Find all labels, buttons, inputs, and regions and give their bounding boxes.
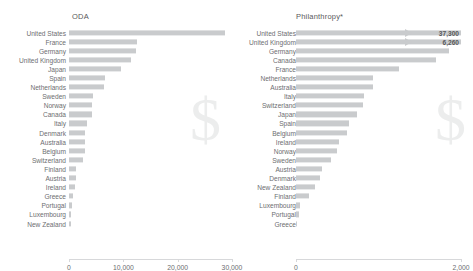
bar-track [296, 139, 461, 144]
bar-track [296, 30, 461, 35]
category-label: United Kingdom [2, 56, 66, 63]
category-label: Finland [230, 193, 296, 200]
category-label: Ireland [2, 184, 66, 191]
overflow-arrow-icon [405, 29, 412, 37]
category-label: Netherlands [230, 75, 296, 82]
plot-area-philanthropy: United States37,300United Kingdom6,260Ge… [240, 28, 473, 228]
category-label: New Zealand [2, 220, 66, 227]
bar-row: France [240, 64, 473, 73]
bar-track [69, 48, 232, 53]
bar [296, 112, 357, 117]
bar-track [69, 94, 232, 99]
bar [69, 94, 93, 99]
category-label: Germany [2, 47, 66, 54]
bar [296, 94, 364, 99]
bar-track [296, 66, 461, 71]
bar-track [69, 121, 232, 126]
bar-track [296, 75, 461, 80]
plot-area-oda: United StatesFranceGermanyUnited Kingdom… [0, 28, 240, 228]
bar [69, 112, 92, 117]
category-label: Austria [2, 175, 66, 182]
bar-row: Luxembourg [240, 201, 473, 210]
bar-track [296, 221, 461, 226]
category-label: Spain [2, 75, 66, 82]
bar-row: United States37,300 [240, 28, 473, 37]
bar [69, 194, 73, 199]
category-label: United Kingdom [230, 38, 296, 45]
category-label: New Zealand [230, 184, 296, 191]
axis-tick [69, 259, 70, 262]
bar-row: Ireland [0, 183, 240, 192]
bar-track [296, 175, 461, 180]
category-label: Canada [2, 111, 66, 118]
bar-track [69, 148, 232, 153]
category-label: Luxembourg [230, 202, 296, 209]
bar-track [296, 121, 461, 126]
bar [69, 75, 105, 80]
bar-track [296, 112, 461, 117]
bar-row: Canada [0, 110, 240, 119]
x-axis-philanthropy: 02,000 [296, 259, 461, 260]
bar-track [69, 85, 232, 90]
bar [296, 148, 337, 153]
axis-tick-label: 0 [67, 264, 71, 271]
bar [296, 30, 461, 35]
bar [296, 221, 297, 226]
category-label: Japan [230, 111, 296, 118]
bar-row: Italy [0, 119, 240, 128]
category-label: Norway [2, 102, 66, 109]
bar-row: France [0, 37, 240, 46]
bar [69, 148, 85, 153]
bar [296, 175, 320, 180]
bar-track [296, 39, 461, 44]
bar-row: Japan [240, 110, 473, 119]
bar-row: Sweden [240, 155, 473, 164]
bar-row: Greece [240, 219, 473, 228]
panel-title-oda: ODA [72, 12, 89, 21]
bar-track [296, 85, 461, 90]
bar [69, 175, 76, 180]
bar-track [69, 212, 232, 217]
bar-row: Norway [240, 146, 473, 155]
bar-row: Austria [240, 164, 473, 173]
bar-row: Finland [0, 164, 240, 173]
bar-row: Spain [240, 119, 473, 128]
axis-tick-label: 0 [294, 264, 298, 271]
bar-track [296, 103, 461, 108]
category-label: Luxembourg [2, 211, 66, 218]
bar-row: Netherlands [0, 83, 240, 92]
bar-row: Finland [240, 192, 473, 201]
bar-row: Portugal [0, 201, 240, 210]
category-label: Portugal [230, 211, 296, 218]
bar-track [69, 39, 232, 44]
axis-tick [461, 259, 462, 262]
category-label: Italy [2, 120, 66, 127]
bar [296, 85, 373, 90]
bar [69, 30, 225, 35]
bar-value-label: 37,300 [439, 29, 459, 36]
bar [69, 203, 72, 208]
category-label: Portugal [2, 202, 66, 209]
bar [69, 66, 121, 71]
bar-track [69, 130, 232, 135]
bar [69, 166, 76, 171]
category-label: Greece [2, 193, 66, 200]
bar-track [69, 175, 232, 180]
category-label: Denmark [230, 175, 296, 182]
bar [296, 121, 349, 126]
bar [296, 57, 436, 62]
category-label: Switzerland [230, 102, 296, 109]
bar-track [296, 185, 461, 190]
category-label: Spain [230, 120, 296, 127]
bar-row: New Zealand [240, 183, 473, 192]
bar-row: Germany [240, 46, 473, 55]
bar-track [296, 130, 461, 135]
category-label: Netherlands [2, 84, 66, 91]
bar-track [296, 157, 461, 162]
axis-tick-label: 10,000 [113, 264, 134, 271]
category-label: Belgium [230, 129, 296, 136]
bar [296, 157, 331, 162]
category-label: Finland [2, 165, 66, 172]
bar-row: Greece [0, 192, 240, 201]
bar [69, 48, 136, 53]
